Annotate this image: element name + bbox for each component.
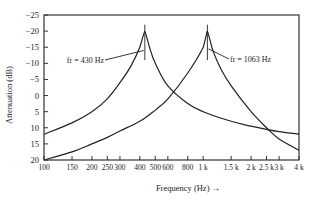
y-tick-label: 0 [35,91,39,101]
y-tick-label: −20 [26,26,39,36]
annotation-430: fr = 430 Hz [67,56,105,65]
x-tick-label: 1 k [198,163,208,172]
x-axis-label: Frequency (Hz) → [156,183,220,193]
x-tick-label: 800 [182,163,194,172]
plot-area [44,15,299,160]
annotation-leader-1063 [208,49,229,59]
x-tick-label: 250 [102,163,114,172]
x-tick-label: 3 k [274,163,284,172]
x-tick-label: 200 [86,163,98,172]
x-tick-label: 600 [162,163,174,172]
x-tick-label: 400 [134,163,146,172]
y-axis-label: Attenuation (dB) [4,66,14,124]
attenuation-chart: −25−20−15−10−505101520100150200250300400… [0,0,318,202]
plot-frame [44,15,299,160]
y-tick-label: 10 [31,123,40,133]
axis-ticks: −25−20−15−10−505101520100150200250300400… [26,10,304,172]
curve-1063 [44,31,299,160]
x-tick-label: 500 [150,163,162,172]
annotation-leader-430 [105,50,144,60]
y-tick-label: −15 [26,42,39,52]
x-tick-label: 4 k [294,163,304,172]
y-tick-label: −25 [26,10,39,20]
x-tick-label: 2.5 k [259,163,274,172]
x-tick-label: 100 [38,163,50,172]
x-tick-label: 1.5 k [224,163,239,172]
annotation-1063: fr = 1063 Hz [230,55,272,64]
y-tick-label: 5 [35,107,39,117]
x-tick-label: 300 [114,163,126,172]
x-tick-label: 2 k [246,163,256,172]
y-tick-label: 15 [31,139,40,149]
curve-430 [44,31,299,134]
curves [44,25,299,160]
y-tick-label: −5 [30,74,39,84]
x-tick-label: 150 [66,163,78,172]
y-tick-label: −10 [26,58,39,68]
